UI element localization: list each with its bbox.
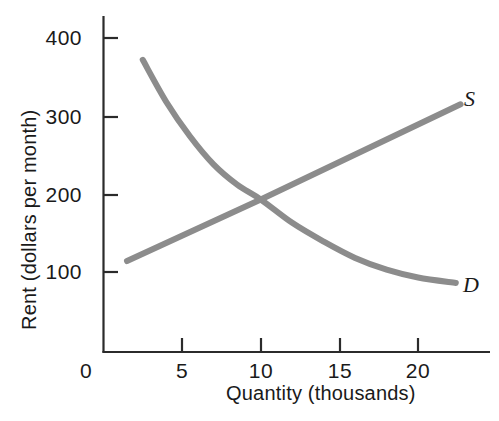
- y-axis-title: Rent (dollars per month): [18, 0, 48, 330]
- x-tick-label-0: 0: [80, 359, 92, 383]
- demand-curve: [143, 60, 456, 283]
- demand-curve-label: D: [463, 272, 479, 298]
- supply-curve-label: S: [464, 86, 475, 112]
- chart-plot-area: [0, 0, 499, 421]
- x-tick-label-15: 15: [328, 359, 352, 383]
- x-axis-title: Quantity (thousands): [226, 382, 416, 405]
- supply-curve: [127, 104, 461, 261]
- supply-demand-chart: 400 300 200 100 0 5 10 15 20 Rent (dolla…: [0, 0, 499, 421]
- x-tick-label-20: 20: [406, 359, 430, 383]
- x-tick-label-10: 10: [249, 359, 273, 383]
- x-tick-label-5: 5: [176, 359, 188, 383]
